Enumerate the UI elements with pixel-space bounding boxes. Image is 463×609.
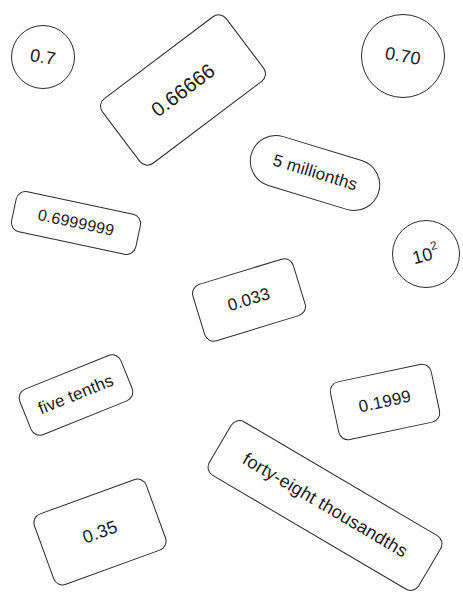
card-0-66666: 0.66666: [96, 10, 270, 169]
card-five-tenths: five tenths: [16, 351, 137, 439]
card-label: forty-eight thousandths: [239, 449, 411, 562]
card-10-squared: 102: [392, 220, 460, 288]
card-label: 0.033: [225, 284, 272, 316]
card-0-6999999: 0.6999999: [9, 189, 143, 257]
card-label: 0.7: [29, 44, 58, 69]
power-exponent: 2: [429, 238, 439, 252]
card-0-35: 0.35: [31, 476, 170, 588]
card-label: 0.35: [80, 516, 121, 548]
card-0-1999: 0.1999: [328, 362, 442, 442]
card-label: 0.70: [384, 43, 423, 70]
card-label: 0.1999: [357, 387, 413, 418]
card-forty-eight-thousandths: forty-eight thousandths: [204, 416, 446, 594]
card-label: 102: [410, 239, 442, 268]
card-label: 5 millionths: [270, 151, 359, 196]
card-0-7: 0.7: [11, 25, 75, 89]
card-label: 0.66666: [147, 59, 220, 122]
card-label: five tenths: [35, 371, 116, 419]
card-5-millionths: 5 millionths: [243, 129, 386, 218]
card-label: 0.6999999: [36, 206, 115, 240]
card-0-033: 0.033: [190, 256, 309, 344]
card-0-70: 0.70: [361, 14, 445, 98]
